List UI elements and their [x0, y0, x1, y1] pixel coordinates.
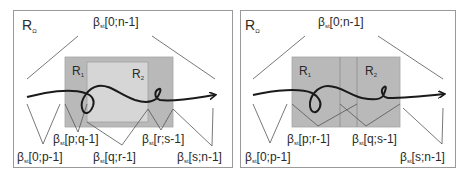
beta-label-s-n: βst[s;n-1]: [177, 150, 222, 164]
beta-label-p-r: βst[p;r-1]: [287, 132, 330, 146]
beta-label-0-p: βst[0;p-1]: [17, 150, 63, 164]
beta-label-top: βst[0;n-1]: [93, 15, 139, 29]
beta-label-0-p: βst[0;p-1]: [245, 150, 291, 164]
diagram-canvas: RΩ R1 R2 βst[0;n-1] βst[p;q-1] βst[r;s-1…: [0, 0, 466, 176]
beta-label-r-s: βst[r;s-1]: [142, 132, 184, 146]
beta-label-s-n: βst[s;n-1]: [400, 150, 445, 164]
beta-label-q-r: βst[q;r-1]: [93, 150, 136, 164]
right-panel: RΩ R1 R2 βst[0;n-1] βst[p;r-1] βst[q;s-1…: [241, 11, 456, 168]
beta-label-q-s: βst[q;s-1]: [352, 132, 397, 146]
beta-label-top: βst[0;n-1]: [318, 15, 364, 29]
beta-label-p-q: βst[p;q-1]: [53, 132, 99, 146]
left-panel: RΩ R1 R2 βst[0;n-1] βst[p;q-1] βst[r;s-1…: [14, 11, 233, 168]
